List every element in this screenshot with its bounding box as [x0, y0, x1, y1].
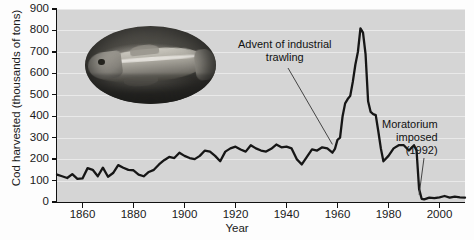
- y-axis-tick-label: 500: [30, 89, 49, 101]
- gridline: [57, 9, 465, 10]
- annotation-line-2: trawling: [238, 51, 332, 64]
- y-axis-tick-label: 800: [30, 24, 49, 36]
- x-axis-tick-label: 2000: [410, 209, 470, 221]
- cod-harvest-chart-figure: Cod harvested (thousands of tons) Year A…: [0, 0, 474, 240]
- y-axis-tick-label: 900: [30, 3, 49, 15]
- atlantic-cod-photo-inset: [85, 26, 216, 104]
- y-axis-tick-label: 700: [30, 46, 49, 58]
- y-axis-tick: [52, 73, 57, 74]
- y-axis-tick-label: 100: [30, 175, 49, 187]
- y-axis-tick: [52, 116, 57, 117]
- y-axis-tick-label: 300: [30, 132, 49, 144]
- y-axis-line: [56, 8, 57, 203]
- y-axis-tick: [52, 8, 57, 9]
- y-axis-tick-label: 200: [30, 153, 49, 165]
- annotation-moratorium-imposed: Moratorium imposed (1992): [382, 118, 438, 157]
- y-axis-title: Cod harvested (thousands of tons): [10, 0, 22, 198]
- x-axis-title: Year: [0, 222, 474, 234]
- photo-vignette: [85, 26, 216, 104]
- y-axis-tick: [52, 180, 57, 181]
- y-axis-tick: [52, 51, 57, 52]
- y-axis-tick: [52, 201, 57, 202]
- annotation-line-3: (1992): [382, 144, 438, 157]
- x-axis-line: [56, 202, 465, 203]
- y-axis-tick-label: 400: [30, 110, 49, 122]
- annotation-line-1: Moratorium: [382, 118, 438, 131]
- y-axis-tick: [52, 158, 57, 159]
- y-axis-tick: [52, 137, 57, 138]
- annotation-line-1: Advent of industrial: [238, 38, 332, 51]
- annotation-line-2: imposed: [382, 131, 438, 144]
- y-axis-tick: [52, 94, 57, 95]
- y-axis-tick-label: 600: [30, 67, 49, 79]
- y-axis-tick: [52, 30, 57, 31]
- gridline: [57, 181, 465, 182]
- annotation-advent-of-industrial-trawling: Advent of industrial trawling: [238, 38, 332, 64]
- gridline: [57, 159, 465, 160]
- y-axis-tick-label: 0: [43, 196, 49, 208]
